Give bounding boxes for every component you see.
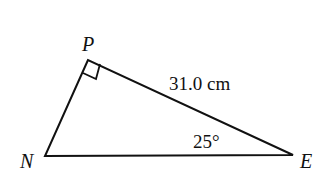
vertex-label-n: N	[19, 150, 35, 172]
side-length-label: 31.0 cm	[169, 73, 230, 94]
vertex-label-e: E	[299, 150, 312, 172]
vertex-label-p: P	[81, 33, 94, 55]
triangle-diagram: P N E 31.0 cm 25°	[0, 0, 327, 180]
angle-label: 25°	[193, 131, 220, 152]
